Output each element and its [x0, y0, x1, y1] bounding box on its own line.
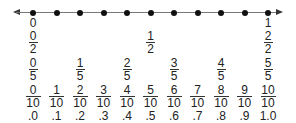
denominator: 10 — [21, 97, 45, 109]
decimal-label-8: .8 — [209, 110, 233, 122]
numerator: 10 — [256, 84, 280, 96]
numerator: 1 — [45, 84, 69, 96]
fraction-tenth-2: 2 10 — [68, 84, 92, 109]
tick-dot-4 — [124, 10, 130, 16]
tick-dot-8 — [218, 10, 224, 16]
denominator: 10 — [139, 97, 163, 109]
denominator: 10 — [45, 97, 69, 109]
fraction-fifth-3: 3 5 — [162, 57, 186, 82]
numerator: 3 — [92, 84, 116, 96]
numerator: 0 — [21, 57, 45, 69]
numerator: 1 — [68, 57, 92, 69]
denominator: 2 — [21, 43, 45, 55]
decimal-label-4: .4 — [115, 110, 139, 122]
tick-dot-10 — [265, 10, 271, 16]
numerator: 7 — [186, 84, 210, 96]
fraction-tenth-3: 3 10 — [92, 84, 116, 109]
whole-label-1: 1 — [256, 17, 280, 29]
tick-dot-7 — [195, 10, 201, 16]
decimal-label-2: .2 — [68, 110, 92, 122]
fraction-half-2: 2 2 — [256, 30, 280, 55]
fraction-half-1: 1 2 — [139, 30, 163, 55]
numerator: 4 — [209, 57, 233, 69]
denominator: 5 — [68, 70, 92, 82]
numerator: 6 — [162, 84, 186, 96]
fraction-fifth-5: 5 5 — [256, 57, 280, 82]
denominator: 10 — [68, 97, 92, 109]
denominator: 10 — [115, 97, 139, 109]
tick-dot-2 — [77, 10, 83, 16]
fraction-tenth-6: 6 10 — [162, 84, 186, 109]
tick-dot-6 — [171, 10, 177, 16]
numerator: 0 — [21, 30, 45, 42]
decimal-label-0: .0 — [21, 110, 45, 122]
denominator: 5 — [209, 70, 233, 82]
denominator: 2 — [256, 43, 280, 55]
fraction-tenth-0: 0 10 — [21, 84, 45, 109]
decimal-label-9: .9 — [233, 110, 257, 122]
numerator: 2 — [68, 84, 92, 96]
fraction-tenth-8: 8 10 — [209, 84, 233, 109]
denominator: 10 — [209, 97, 233, 109]
tick-dot-9 — [242, 10, 248, 16]
numerator: 2 — [256, 30, 280, 42]
denominator: 5 — [21, 70, 45, 82]
whole-label-0: 0 — [21, 17, 45, 29]
denominator: 5 — [256, 70, 280, 82]
numerator: 8 — [209, 84, 233, 96]
denominator: 2 — [139, 43, 163, 55]
denominator: 10 — [256, 97, 280, 109]
fraction-half-0: 0 2 — [21, 30, 45, 55]
decimal-label-5: .5 — [139, 110, 163, 122]
denominator: 10 — [92, 97, 116, 109]
number-line-diagram: 0 1 0 2 1 2 2 2 0 5 1 5 2 5 3 5 4 5 — [0, 0, 296, 123]
numerator: 5 — [256, 57, 280, 69]
right-arrow-icon — [276, 9, 283, 15]
denominator: 10 — [162, 97, 186, 109]
fraction-tenth-5: 5 10 — [139, 84, 163, 109]
fraction-tenth-10: 10 10 — [256, 84, 280, 109]
numerator: 0 — [21, 84, 45, 96]
tick-dot-3 — [101, 10, 107, 16]
tick-dot-5 — [148, 10, 154, 16]
fraction-fifth-1: 1 5 — [68, 57, 92, 82]
decimal-label-3: .3 — [92, 110, 116, 122]
numerator: 3 — [162, 57, 186, 69]
denominator: 5 — [162, 70, 186, 82]
fraction-fifth-4: 4 5 — [209, 57, 233, 82]
numerator: 9 — [233, 84, 257, 96]
fraction-tenth-1: 1 10 — [45, 84, 69, 109]
fraction-tenth-4: 4 10 — [115, 84, 139, 109]
numerator: 4 — [115, 84, 139, 96]
numerator: 1 — [139, 30, 163, 42]
decimal-label-7: .7 — [186, 110, 210, 122]
fraction-tenth-9: 9 10 — [233, 84, 257, 109]
numerator: 2 — [115, 57, 139, 69]
denominator: 10 — [233, 97, 257, 109]
fraction-fifth-2: 2 5 — [115, 57, 139, 82]
numerator: 5 — [139, 84, 163, 96]
denominator: 5 — [115, 70, 139, 82]
denominator: 10 — [186, 97, 210, 109]
decimal-label-6: .6 — [162, 110, 186, 122]
decimal-label-10: 1.0 — [256, 110, 280, 122]
tick-dot-1 — [54, 10, 60, 16]
decimal-label-1: .1 — [45, 110, 69, 122]
tick-dot-0 — [30, 10, 36, 16]
fraction-fifth-0: 0 5 — [21, 57, 45, 82]
fraction-tenth-7: 7 10 — [186, 84, 210, 109]
